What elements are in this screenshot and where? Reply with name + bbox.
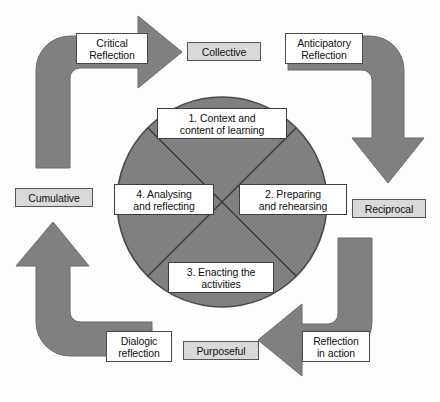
attribute-label-collective: Collective [187,42,261,61]
arrow-label-reflection-in-action: Reflection in action [302,331,370,362]
quadrant-label-context-and-content: 1. Context and content of learning [157,108,287,139]
quadrant-label-enacting-the-activities: 3. Enacting the activities [168,262,274,293]
attribute-label-reciprocal: Reciprocal [352,199,426,218]
attribute-label-cumulative: Cumulative [15,188,93,207]
arrow-label-anticipatory-reflection: Anticipatory Reflection [285,33,363,64]
reflective-cycle-diagram: Critical Reflection Anticipatory Reflect… [0,0,440,402]
quadrant-label-analysing-and-reflecting: 4. Analysing and reflecting [114,184,214,215]
quadrant-label-preparing-and-rehearsing: 2. Preparing and rehearsing [239,184,347,215]
arrow-label-dialogic-reflection: Dialogic reflection [106,331,172,362]
attribute-label-purposeful: Purposeful [183,341,259,360]
arrow-label-critical-reflection: Critical Reflection [76,33,148,64]
